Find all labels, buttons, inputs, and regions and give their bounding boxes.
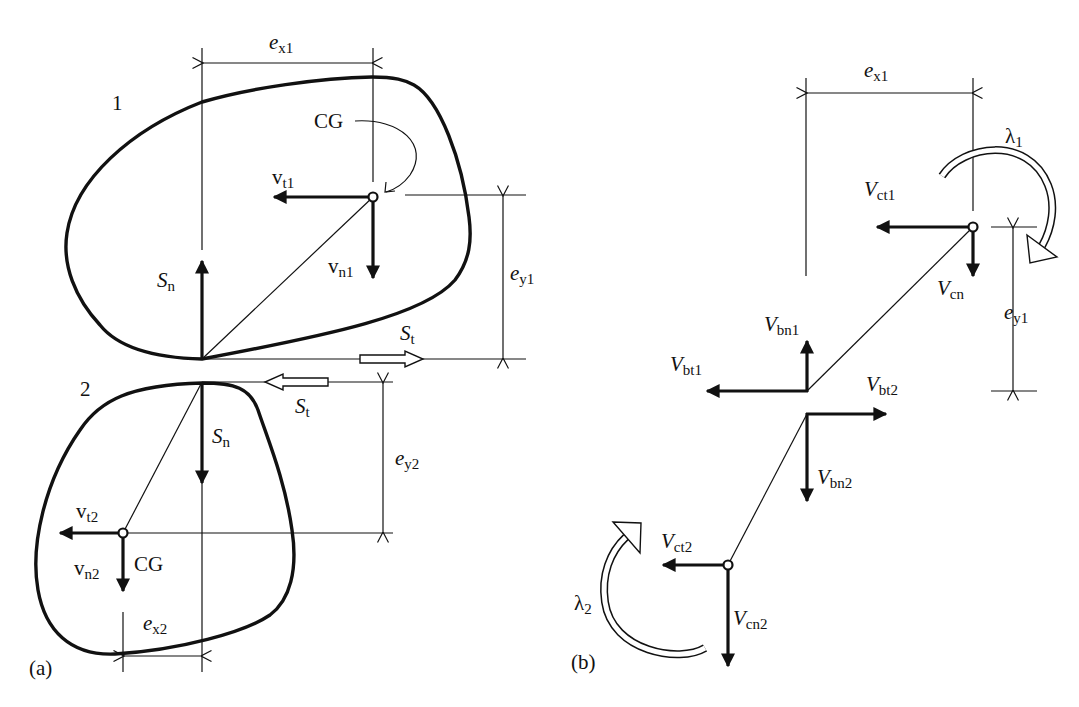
ex2-label: ex2	[143, 611, 167, 637]
panel-b-label: (b)	[571, 650, 596, 674]
body-1-label: 1	[112, 91, 123, 115]
panel-a: 1 2 ex1 CG vt1 vn1 Sn ey1 St St Sn ey2 v…	[29, 30, 534, 680]
vt1-label: vt1	[272, 165, 294, 191]
b-cg1-point	[969, 223, 978, 232]
vbt1-label: Vbt1	[670, 352, 702, 378]
cg-callout-arrow	[355, 121, 416, 192]
vcn2-label: Vcn2	[733, 606, 768, 632]
vbn2-label: Vbn2	[817, 465, 852, 491]
lever-line-body-2	[123, 382, 202, 533]
vt2-label: vt2	[76, 499, 98, 525]
panel-a-label: (a)	[29, 656, 52, 680]
body-2-outline	[36, 383, 294, 654]
vn2-label: vn2	[74, 556, 100, 582]
vcn-label: Vcn	[937, 276, 964, 302]
lambda1-rotation-arrow	[942, 150, 1057, 263]
ex1-label: ex1	[269, 30, 293, 56]
vbn1-label: Vbn1	[764, 312, 799, 338]
body-1-outline	[66, 77, 470, 359]
ey1-label: ey1	[510, 261, 534, 287]
st-lower-label: St	[295, 394, 311, 420]
b-ex1-label: ex1	[864, 58, 888, 84]
vn1-label: vn1	[328, 254, 354, 280]
st-upper-label: St	[400, 321, 416, 347]
vbt2-label: Vbt2	[866, 372, 898, 398]
b-cg2-point	[724, 561, 733, 570]
st-upper-hollow-arrow	[360, 351, 423, 367]
sn-lower-label: Sn	[212, 424, 231, 450]
b-lever-line-1	[807, 227, 973, 391]
b-ey1-label: ey1	[1004, 300, 1028, 326]
ey2-label: ey2	[395, 446, 419, 472]
lambda2-label: λ2	[574, 591, 592, 617]
vct1-label: Vct1	[864, 177, 895, 203]
sn-upper-label: Sn	[157, 268, 176, 294]
cg2-point	[119, 529, 128, 538]
panel-b: ex1 λ1 Vct1 Vcn ey1 Vbn1 Vbt1 Vbt2 Vbn2 …	[571, 58, 1057, 674]
cg2-label: CG	[134, 552, 163, 576]
cg1-point	[369, 193, 378, 202]
cg1-label: CG	[314, 109, 343, 133]
lambda1-label: λ1	[1005, 124, 1023, 150]
contact-mechanics-figure: 1 2 ex1 CG vt1 vn1 Sn ey1 St St Sn ey2 v…	[0, 0, 1079, 707]
vct2-label: Vct2	[661, 529, 692, 555]
b-lever-line-2	[728, 414, 807, 565]
st-lower-hollow-arrow	[265, 374, 328, 390]
body-2-label: 2	[80, 377, 91, 401]
